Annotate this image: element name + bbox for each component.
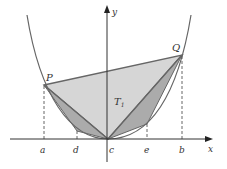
tick-b-label: b (179, 145, 185, 155)
parabola-triangle-diagram: y x P Q T1 a d c e b (0, 0, 227, 169)
y-axis-label: y (111, 7, 118, 17)
tick-d-label: d (73, 145, 79, 155)
point-P-label: P (45, 72, 53, 83)
triangle-T1 (44, 55, 182, 139)
x-axis-arrow-icon (205, 136, 213, 142)
tick-e-label: e (144, 145, 149, 155)
x-axis-label: x (208, 144, 213, 154)
y-axis-arrow-icon (104, 5, 110, 13)
point-Q-label: Q (172, 42, 180, 53)
tick-c-label: c (109, 145, 114, 155)
tick-a-label: a (40, 145, 45, 155)
